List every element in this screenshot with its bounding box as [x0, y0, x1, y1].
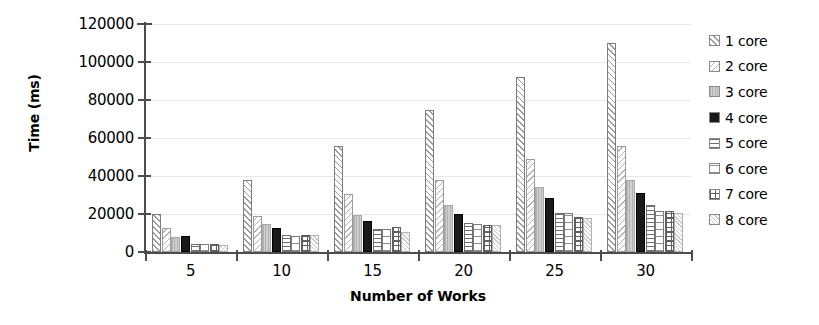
bar-5-core-20 [464, 223, 473, 252]
bar-chart: Time (ms) 020000400006000080000100000120… [0, 0, 819, 325]
bar-6-core-15 [382, 229, 391, 252]
legend-swatch-icon [709, 138, 720, 149]
y-axis-tick [138, 213, 151, 215]
bar-group-25 [509, 24, 600, 252]
x-axis-tick [691, 250, 693, 261]
legend-label: 5 core [725, 135, 767, 151]
legend-swatch-icon [709, 189, 720, 200]
plot-area [145, 24, 691, 252]
x-axis-tick-label: 15 [343, 262, 403, 280]
legend-item-6-core[interactable]: 6 core [709, 156, 813, 182]
legend-item-5-core[interactable]: 5 core [709, 130, 813, 156]
bar-2-core-20 [435, 180, 444, 252]
x-axis-tick-label: 25 [525, 262, 585, 280]
legend-item-1-core[interactable]: 1 core [709, 28, 813, 54]
bar-8-core-20 [492, 225, 501, 252]
bar-2-core-30 [617, 146, 626, 252]
x-axis-tick-label: 30 [616, 262, 676, 280]
bar-4-core-5 [181, 236, 190, 252]
bar-4-core-15 [363, 221, 372, 252]
x-axis-tick [236, 250, 238, 261]
x-axis-tick [145, 250, 147, 261]
legend-swatch-icon [709, 61, 720, 72]
bar-1-core-15 [334, 146, 343, 252]
legend-label: 6 core [725, 161, 767, 177]
legend-swatch-icon [709, 86, 720, 97]
y-axis-tick [138, 99, 151, 101]
x-axis-title: Number of Works [145, 288, 691, 304]
bar-2-core-25 [526, 159, 535, 252]
bar-1-core-5 [152, 214, 161, 252]
bar-group-30 [600, 24, 691, 252]
bar-5-core-30 [646, 205, 655, 252]
x-axis-tick [327, 250, 329, 261]
bar-3-core-20 [444, 205, 453, 253]
bar-2-core-5 [162, 228, 171, 252]
y-axis-tick-label: 120000 [22, 15, 134, 33]
legend-label: 1 core [725, 33, 767, 49]
bar-group-10 [236, 24, 327, 252]
bar-4-core-10 [272, 228, 281, 252]
y-axis-tick [138, 61, 151, 63]
bar-3-core-10 [262, 224, 271, 252]
legend-item-4-core[interactable]: 4 core [709, 105, 813, 131]
y-axis-tick-label: 80000 [22, 91, 134, 109]
legend-label: 4 core [725, 110, 767, 126]
bar-5-core-15 [373, 229, 382, 252]
x-axis-tick [418, 250, 420, 261]
bar-6-core-5 [200, 244, 209, 252]
bar-8-core-30 [674, 213, 683, 252]
bar-4-core-20 [454, 214, 463, 252]
y-axis-tick-label: 100000 [22, 53, 134, 71]
bar-8-core-15 [401, 232, 410, 252]
bar-6-core-10 [291, 236, 300, 252]
bar-8-core-10 [310, 235, 319, 252]
legend-item-3-core[interactable]: 3 core [709, 79, 813, 105]
bar-group-20 [418, 24, 509, 252]
bar-3-core-30 [626, 180, 635, 252]
bar-3-core-25 [535, 187, 544, 252]
x-axis-tick [509, 250, 511, 261]
y-axis-tick-label: 40000 [22, 167, 134, 185]
legend-item-7-core[interactable]: 7 core [709, 182, 813, 208]
y-axis-tick [137, 23, 152, 25]
chart-legend: 1 core2 core3 core4 core5 core6 core7 co… [709, 28, 813, 233]
y-axis-tick-label: 60000 [22, 129, 134, 147]
bar-6-core-20 [473, 224, 482, 253]
legend-swatch-icon [709, 214, 720, 225]
y-axis-tick-labels: 020000400006000080000100000120000 [22, 0, 134, 325]
bar-5-core-25 [555, 213, 564, 252]
bar-7-core-10 [301, 235, 310, 252]
bar-group-5 [145, 24, 236, 252]
legend-label: 8 core [725, 212, 767, 228]
bar-1-core-20 [425, 110, 434, 252]
bar-1-core-25 [516, 77, 525, 252]
legend-item-8-core[interactable]: 8 core [709, 207, 813, 233]
bar-4-core-25 [545, 198, 554, 252]
bar-7-core-30 [665, 211, 674, 252]
legend-label: 7 core [725, 186, 767, 202]
bar-5-core-5 [191, 244, 200, 252]
bar-3-core-5 [171, 237, 180, 252]
y-axis-tick-label: 20000 [22, 205, 134, 223]
legend-label: 2 core [725, 58, 767, 74]
bar-7-core-25 [574, 217, 583, 252]
x-axis-tick [600, 250, 602, 261]
bar-7-core-5 [210, 244, 219, 252]
y-axis-tick-label: 0 [22, 243, 134, 261]
bar-1-core-30 [607, 43, 616, 252]
bar-2-core-15 [344, 194, 353, 252]
legend-item-2-core[interactable]: 2 core [709, 54, 813, 80]
bar-7-core-20 [483, 225, 492, 252]
legend-swatch-icon [709, 112, 720, 123]
bar-4-core-30 [636, 193, 645, 252]
bar-5-core-10 [282, 235, 291, 252]
bar-1-core-10 [243, 180, 252, 252]
bar-8-core-25 [583, 218, 592, 252]
bar-8-core-5 [219, 245, 228, 252]
bar-6-core-25 [564, 213, 573, 252]
bar-6-core-30 [655, 211, 664, 252]
bar-3-core-15 [353, 215, 362, 252]
legend-swatch-icon [709, 163, 720, 174]
bar-group-15 [327, 24, 418, 252]
